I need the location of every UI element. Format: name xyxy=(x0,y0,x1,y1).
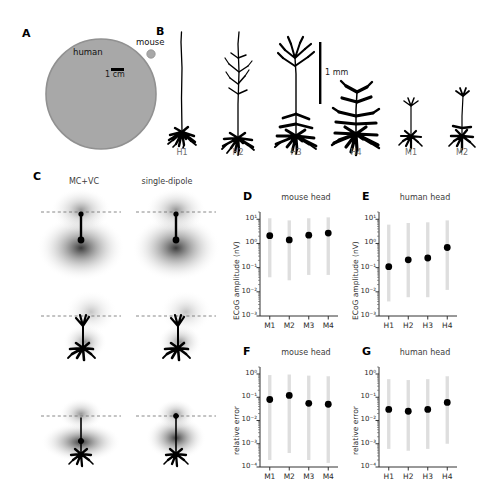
y-tick-label: 10⁻⁴ xyxy=(353,462,376,470)
panel-f-title: mouse head xyxy=(256,348,356,357)
morphology-label-h4: H4 xyxy=(342,148,370,157)
morphology-label-h1: H1 xyxy=(168,148,196,157)
y-tick-label: 10⁻³ xyxy=(353,439,376,447)
morphology-label-m2: M2 xyxy=(448,148,476,157)
panel-d-title: mouse head xyxy=(256,193,356,202)
morphology-h1 xyxy=(168,32,196,148)
mouse-head-circle xyxy=(147,50,155,58)
x-tick-label: H4 xyxy=(436,472,458,481)
panel-c-cell-row2-mcvc xyxy=(41,290,121,360)
scalebar-1mm-label: 1 mm xyxy=(325,68,348,77)
y-tick-label: 10⁻¹ xyxy=(353,263,376,271)
x-tick-label: H4 xyxy=(436,321,458,330)
panel-c-column-mcvc: MC+VC xyxy=(49,177,119,186)
x-tick-label: M4 xyxy=(317,472,339,481)
morphology-m2 xyxy=(449,88,475,152)
panel-c-cell-row3-single xyxy=(136,399,216,466)
panel-g-title: human head xyxy=(375,348,475,357)
panel-c-column-single-dipole: single-dipole xyxy=(124,177,210,186)
panel-c-cell-row2-single xyxy=(136,290,216,360)
morphology-label-h2: H2 xyxy=(224,148,252,157)
scalebar-1mm xyxy=(319,42,321,104)
y-tick-label: 10¹ xyxy=(353,214,376,222)
y-tick-label: 10⁻² xyxy=(234,287,257,295)
y-tick-label: 10⁻³ xyxy=(353,311,376,319)
panel-b-morphologies xyxy=(160,28,470,146)
panel-letter-g: G xyxy=(362,345,371,358)
y-tick-label: 10⁻² xyxy=(353,287,376,295)
y-tick-label: 10⁰ xyxy=(234,238,257,246)
y-tick-label: 10⁻⁴ xyxy=(234,462,257,470)
panel-c-field-maps xyxy=(36,192,226,492)
panel-c-cell-row1-single xyxy=(132,188,220,281)
morphology-h4 xyxy=(332,81,379,155)
human-head-label: human xyxy=(73,47,103,57)
morphology-h2 xyxy=(222,32,254,155)
y-tick-label: 10⁻¹ xyxy=(353,392,376,400)
panel-e-title: human head xyxy=(375,193,475,202)
y-tick-label: 10⁰ xyxy=(353,238,376,246)
morphology-label-m1: M1 xyxy=(397,148,425,157)
panel-letter-c: C xyxy=(33,170,41,183)
scalebar-1cm-label: 1 cm xyxy=(105,70,125,79)
y-tick-label: 10⁰ xyxy=(234,369,257,377)
morphology-h3 xyxy=(275,37,316,154)
y-tick-label: 10⁰ xyxy=(353,369,376,377)
figure-canvas: A human mouse 1 cm B xyxy=(0,0,486,496)
y-tick-label: 10¹ xyxy=(234,214,257,222)
panel-letter-e: E xyxy=(362,190,370,203)
panel-c-cell-row1-mcvc xyxy=(37,188,125,281)
y-tick-label: 10⁻² xyxy=(353,415,376,423)
y-tick-label: 10⁻² xyxy=(234,415,257,423)
y-tick-label: 10⁻¹ xyxy=(234,392,257,400)
y-tick-label: 10⁻¹ xyxy=(234,263,257,271)
y-tick-label: 10⁻³ xyxy=(234,311,257,319)
x-tick-label: M4 xyxy=(317,321,339,330)
panel-letter-d: D xyxy=(243,190,252,203)
y-tick-label: 10⁻³ xyxy=(234,439,257,447)
panel-c-cell-row3-mcvc xyxy=(41,398,121,466)
panel-letter-f: F xyxy=(243,345,251,358)
morphology-m1 xyxy=(399,98,422,151)
morphology-label-h3: H3 xyxy=(282,148,310,157)
